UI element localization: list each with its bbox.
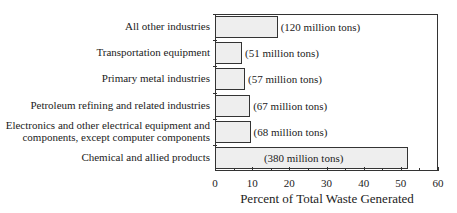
bar-value-label: (120 million tons): [281, 21, 360, 33]
x-tick: [215, 167, 216, 171]
bar: [216, 121, 251, 143]
bar: [216, 95, 250, 117]
bar: [216, 42, 242, 64]
y-tick: [213, 119, 217, 120]
y-tick: [213, 40, 217, 41]
y-tick: [213, 66, 217, 67]
bar-value-label: (67 million tons): [253, 100, 327, 112]
x-tick: [308, 168, 309, 171]
bar: [216, 68, 245, 90]
x-tick: [364, 167, 365, 171]
bar-value-label: (380 million tons): [264, 152, 343, 164]
x-tick: [327, 167, 328, 171]
category-label: Transportation equipment: [96, 46, 210, 58]
x-tick: [419, 168, 420, 171]
x-tick: [382, 168, 383, 171]
horizontal-bar-chart: (120 million tons)(51 million tons)(57 m…: [0, 0, 457, 213]
y-tick: [213, 14, 217, 15]
x-tick-label: 0: [212, 177, 218, 189]
category-label: All other industries: [125, 20, 210, 32]
y-tick: [213, 93, 217, 94]
plot-area: (120 million tons)(51 million tons)(57 m…: [215, 14, 438, 171]
category-label: Electronics and other electrical equipme…: [6, 119, 210, 143]
x-tick: [345, 168, 346, 171]
x-tick: [252, 167, 253, 171]
x-tick: [401, 167, 402, 171]
category-label: Primary metal industries: [102, 72, 210, 84]
category-label: Petroleum refining and related industrie…: [30, 99, 210, 111]
bar-value-label: (51 million tons): [245, 47, 319, 59]
bar-value-label: (68 million tons): [254, 126, 328, 138]
x-tick: [234, 168, 235, 171]
x-tick-label: 20: [284, 177, 295, 189]
x-tick-label: 30: [321, 177, 332, 189]
x-tick-label: 10: [247, 177, 258, 189]
category-label: Chemical and allied products: [81, 151, 210, 163]
x-tick-label: 40: [358, 177, 369, 189]
bar: [216, 16, 278, 38]
x-tick-label: 60: [433, 177, 444, 189]
x-tick: [271, 168, 272, 171]
bar-value-label: (57 million tons): [248, 73, 322, 85]
x-tick: [438, 167, 439, 171]
x-tick-label: 50: [395, 177, 406, 189]
x-axis-title: Percent of Total Waste Generated: [240, 191, 414, 207]
y-tick: [213, 145, 217, 146]
x-tick: [289, 167, 290, 171]
